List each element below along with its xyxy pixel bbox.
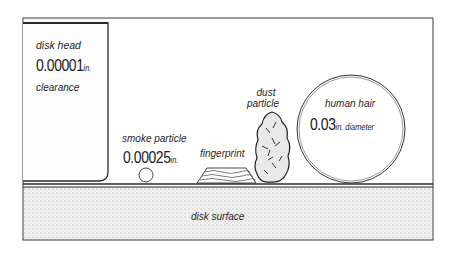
disk-head-caption: clearance [36, 82, 79, 93]
human-hair-diameter-value: 0.03in. diameter [310, 115, 374, 135]
disk-head-label: disk head [36, 39, 81, 51]
dust-particle-label: dust particle [252, 87, 280, 109]
disk-clearance-diagram: disk head 0.00001in. clearance smoke par… [0, 0, 457, 270]
fingerprint-icon [197, 168, 256, 183]
dust-label-line1: dust [252, 87, 280, 98]
dust-label-line2: particle [246, 98, 280, 109]
smoke-particle-icon [139, 168, 153, 182]
disk-surface-label: disk surface [191, 211, 244, 222]
disk-head-clearance-value: 0.00001in. [36, 56, 91, 76]
dust-particle-icon [255, 112, 290, 182]
smoke-particle-size-value: 0.00025in. [123, 148, 178, 168]
fingerprint-label: fingerprint [200, 148, 244, 159]
smoke-particle-label: smoke particle [122, 133, 186, 144]
human-hair-label: human hair [325, 98, 375, 109]
